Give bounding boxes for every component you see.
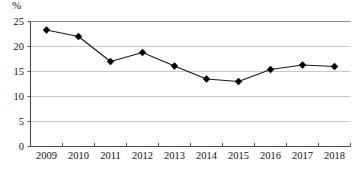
- series-line-group: [47, 30, 335, 82]
- x-tick-label-2014: 2014: [191, 150, 223, 161]
- x-tick-label-2016: 2016: [255, 150, 287, 161]
- series-line: [47, 30, 335, 82]
- y-tick-label-20: 20: [2, 42, 24, 52]
- y-tick-label-5: 5: [2, 117, 24, 127]
- data-point-2018: [331, 63, 338, 70]
- x-tick-label-2018: 2018: [319, 150, 351, 161]
- y-tick-label-10: 10: [2, 92, 24, 102]
- figure-container: % 0510152025 200920102011201220132014201…: [0, 0, 356, 181]
- y-tick-label-0: 0: [2, 142, 24, 152]
- x-tick-label-2012: 2012: [127, 150, 159, 161]
- data-point-2009: [43, 27, 50, 34]
- x-tick-label-2009: 2009: [31, 150, 63, 161]
- y-tick-label-25: 25: [2, 17, 24, 27]
- x-tick-label-2010: 2010: [63, 150, 95, 161]
- y-tick-label-15: 15: [2, 67, 24, 77]
- data-point-2013: [171, 63, 178, 70]
- data-point-2014: [203, 76, 210, 83]
- x-tick-label-2013: 2013: [159, 150, 191, 161]
- series-markers-group: [43, 27, 338, 85]
- x-tick-label-2015: 2015: [223, 150, 255, 161]
- data-point-2017: [299, 62, 306, 69]
- x-tick-label-2017: 2017: [287, 150, 319, 161]
- x-tick-label-2011: 2011: [95, 150, 127, 161]
- figure-caption-partial: [0, 172, 356, 181]
- data-point-2015: [235, 78, 242, 85]
- data-point-2012: [139, 49, 146, 56]
